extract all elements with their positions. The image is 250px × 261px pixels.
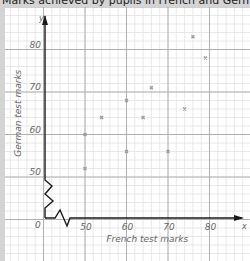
chart-title: Marks achieved by pupils in French and G… bbox=[0, 0, 250, 7]
y-tick-label: 80 bbox=[30, 40, 42, 50]
x-axis-title: French test marks bbox=[106, 234, 188, 244]
y-axis-title: German test marks bbox=[13, 69, 23, 156]
axis-labels: 50607080506070800yxFrench test marksGerm… bbox=[13, 14, 247, 244]
y-tick-label: 70 bbox=[30, 82, 42, 92]
x-tick-label: 80 bbox=[205, 222, 217, 232]
chart-svg: 50607080506070800yxFrench test marksGerm… bbox=[5, 7, 250, 261]
scatter-plot: 50607080506070800yxFrench test marksGerm… bbox=[5, 7, 250, 261]
y-axis-letter: y bbox=[38, 14, 44, 23]
x-tick-label: 50 bbox=[80, 222, 92, 232]
x-tick-label: 70 bbox=[163, 222, 175, 232]
y-tick-label: 50 bbox=[30, 167, 42, 177]
origin-label: 0 bbox=[35, 220, 41, 230]
x-tick-label: 60 bbox=[122, 222, 134, 232]
x-axis-letter: x bbox=[241, 222, 247, 231]
y-tick-label: 60 bbox=[30, 125, 42, 135]
data-points bbox=[84, 35, 207, 170]
